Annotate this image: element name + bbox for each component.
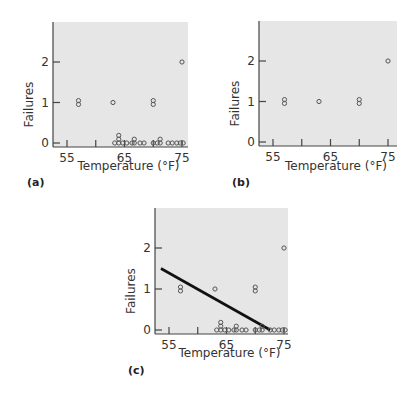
- y-tick-label: 2: [143, 241, 151, 255]
- y-axis-title: Failures: [124, 268, 138, 314]
- x-axis-title: Temperature (°F): [177, 346, 280, 360]
- panel-label: (a): [27, 176, 44, 189]
- y-tick-label: 2: [41, 55, 49, 69]
- y-tick-label: 1: [247, 95, 255, 109]
- y-axis-title: Failures: [228, 81, 242, 127]
- y-tick-label: 1: [41, 96, 49, 110]
- y-tick-label: 0: [143, 323, 151, 337]
- figure: 012556575Temperature (°F)Failures(a)0125…: [0, 0, 410, 393]
- plot-area: [259, 21, 397, 146]
- chart-panel-c: 012556575Temperature (°F)Failures(c): [124, 208, 292, 377]
- x-tick-label: 55: [161, 338, 176, 352]
- y-tick-label: 2: [247, 54, 255, 68]
- panel-label: (b): [232, 176, 250, 189]
- chart-panel-a: 012556575Temperature (°F)Failures(a): [22, 22, 190, 189]
- y-tick-label: 1: [143, 282, 151, 296]
- y-axis-title: Failures: [22, 82, 36, 128]
- chart-panel-b: 012556575Temperature (°F)Failures(b): [228, 21, 397, 189]
- panel-label: (c): [128, 364, 145, 377]
- x-axis-title: Temperature (°F): [284, 159, 387, 173]
- y-tick-label: 0: [247, 135, 255, 149]
- y-tick-label: 0: [41, 136, 49, 150]
- plot-area: [53, 22, 188, 147]
- x-tick-label: 55: [59, 151, 74, 165]
- plot-area: [155, 208, 288, 334]
- x-tick-label: 55: [265, 150, 280, 164]
- x-axis-title: Temperature (°F): [76, 159, 179, 173]
